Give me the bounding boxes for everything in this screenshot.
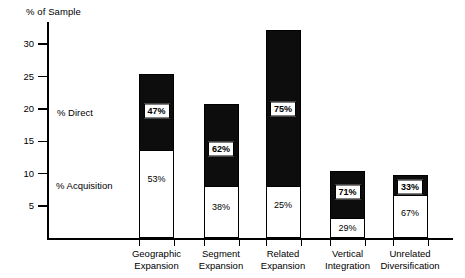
bar-segment-direct: 71% [330,171,365,219]
bar-segment-acquisition: 67% [393,196,428,239]
y-axis-tick [38,108,48,109]
y-axis-tick [38,173,48,174]
bar-related-expansion: 75%25% [266,30,301,239]
bar-label-acquisition: 25% [274,200,292,209]
y-axis-tick-label: 15 [10,136,34,146]
bar-vertical-integration: 71%29% [330,171,365,238]
bar-segment-acquisition: 38% [204,187,239,238]
bar-geographic-expansion: 47%53% [139,74,174,239]
bar-label-acquisition: 29% [338,224,356,233]
y-axis-tick-label: 25 [10,72,34,82]
y-axis-tick-label: 30 [10,39,34,49]
y-axis-tick [38,76,48,77]
y-axis-tick-label: 20 [10,104,34,114]
x-axis-tick [365,239,366,246]
bar-segment-expansion: 62%38% [204,104,239,239]
stacked-bar-chart: % of Sample 51015202530 % Direct % Acqui… [0,0,465,278]
bar-segment-direct: 47% [139,74,174,151]
annotation-percent-direct: % Direct [57,107,93,118]
x-axis-tick [266,239,267,246]
annotation-percent-acquisition: % Acquisition [56,180,113,191]
x-axis-category-label: UnrelatedDiversification [355,248,465,271]
category-label-line2: Diversification [355,260,465,272]
category-label-line1: Unrelated [389,248,430,259]
x-axis-tick [239,239,240,246]
bar-segment-direct: 62% [204,104,239,188]
x-axis-tick [301,239,302,246]
y-axis-tick-label: 5 [10,201,34,211]
x-axis-tick [174,239,175,246]
bar-label-direct: 75% [270,101,296,116]
bar-segment-acquisition: 53% [139,151,174,238]
x-axis-tick [330,239,331,246]
bar-label-direct: 47% [143,103,169,118]
bar-label-acquisition: 67% [401,208,419,217]
y-axis-tick [38,141,48,142]
bar-label-direct: 71% [334,185,360,200]
x-axis-tick [139,239,140,246]
bar-unrelated-diversification: 33%67% [393,175,428,239]
bar-label-direct: 33% [397,179,423,194]
bar-segment-acquisition: 29% [330,219,365,238]
y-axis-tick [38,43,48,44]
y-axis-tick-label: 10 [10,169,34,179]
bar-label-direct: 62% [208,141,234,156]
y-axis-title: % of Sample [26,6,81,17]
y-axis-tick [38,205,48,206]
x-axis-tick [428,239,429,246]
bar-label-acquisition: 38% [212,203,230,212]
bar-segment-direct: 75% [266,30,301,187]
bar-segment-direct: 33% [393,175,428,196]
x-axis-tick [393,239,394,246]
x-axis-tick [204,239,205,246]
bar-label-acquisition: 53% [147,175,165,184]
bar-segment-acquisition: 25% [266,187,301,239]
